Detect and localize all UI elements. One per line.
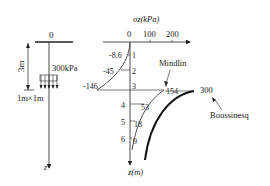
stress-axis-title: σz(kPa) — [133, 14, 160, 24]
footing-size-label: 1m×1m — [17, 93, 44, 103]
right-panel: σz(kPa) 0 100 200 z(m) 1 2 3 4 5 6 -8.6 … — [83, 14, 249, 177]
load-label: 300kPa — [52, 63, 78, 73]
left-z-label: z — [43, 163, 48, 172]
depth-tick-3: 3 — [132, 82, 136, 91]
stress-tick-0: 0 — [127, 29, 131, 39]
origin-label: 0 — [49, 30, 54, 40]
depth-tick-2: 2 — [132, 67, 136, 76]
value-minus-8-6: -8.6 — [109, 51, 122, 60]
value-9: 9 — [133, 137, 137, 146]
distributed-load — [40, 75, 59, 89]
value-154: 154 — [166, 87, 178, 96]
depth-axis-label: z(m) — [127, 167, 143, 177]
depth-dimension-label: 3m — [16, 60, 26, 72]
load-arrows-icon — [40, 85, 59, 89]
depth-tick-5: 5 — [121, 118, 125, 127]
depth-tick-6: 6 — [121, 135, 125, 144]
left-panel: 0 z 3m 300kPa 1m×1m — [16, 30, 78, 172]
value-minus-146: -146 — [83, 82, 98, 91]
boussinesq-arrow-icon — [212, 97, 216, 102]
boussinesq-label: Boussinesq — [210, 110, 249, 120]
value-18: 18 — [134, 120, 142, 129]
stress-tick-200: 200 — [166, 29, 179, 39]
boussinesq-pointer — [215, 100, 222, 110]
depth-tick-4: 4 — [121, 101, 125, 110]
stress-tick-100: 100 — [143, 29, 156, 39]
depth-tick-1: 1 — [132, 51, 136, 60]
value-minus-45: -45 — [103, 67, 114, 76]
dimension-arrow-top-icon — [26, 43, 30, 48]
dimension-arrow-bottom-icon — [26, 85, 30, 90]
boussinesq-curve — [145, 91, 194, 160]
mindlin-label: Mindlin — [159, 58, 187, 68]
stress-distribution-diagram: 0 z 3m 300kPa 1m×1m σz(kPa) 0 100 200 — [0, 0, 270, 186]
value-300: 300 — [200, 85, 213, 95]
value-53: 53 — [141, 103, 149, 112]
